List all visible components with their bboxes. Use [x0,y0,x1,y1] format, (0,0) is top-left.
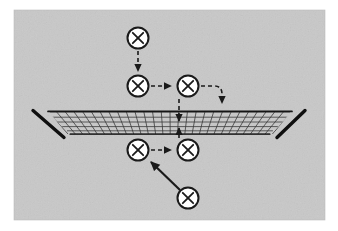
cross-node-n1[interactable] [128,28,149,49]
figure-container [0,0,338,231]
cross-node-n4[interactable] [128,140,149,161]
mesh-node-diagram [0,0,338,231]
cross-node-n6[interactable] [178,188,199,209]
cross-node-n2[interactable] [128,76,149,97]
cross-node-n5[interactable] [178,140,199,161]
cross-node-n3[interactable] [178,76,199,97]
gray-background-panel [14,10,325,220]
